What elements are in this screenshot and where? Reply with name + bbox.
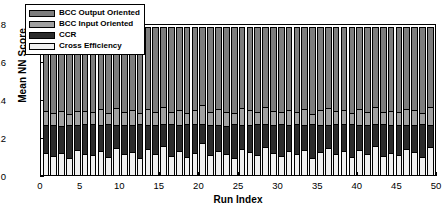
bar-segment-bcc-input-oriented [396,112,403,125]
bar-segment-cross-efficiency [58,153,65,175]
stacked-bar [199,25,206,175]
bar-segment-ccr [247,125,254,152]
bar-segment-ccr [333,124,340,155]
stacked-bar [176,25,183,175]
bar-segment-bcc-output-oriented [427,27,434,108]
legend-label: CCR [59,31,76,39]
legend-swatch [29,10,55,17]
bar-segment-cross-efficiency [372,146,379,175]
bar-segment-cross-efficiency [176,151,183,175]
x-tick-mark [198,172,199,176]
bar-segment-ccr [82,124,89,154]
bar-segment-bcc-output-oriented [419,27,426,113]
bar-segment-cross-efficiency [184,157,191,175]
bar-segment-bcc-input-oriented [58,111,65,126]
bar-segment-bcc-input-oriented [113,108,120,125]
bar-segment-ccr [145,125,152,150]
stacked-bar [388,25,395,175]
x-tick-label: 20 [178,180,218,191]
bar-segment-ccr [98,125,105,151]
legend-item: Cross Efficiency [29,41,140,51]
bar-segment-cross-efficiency [105,157,112,175]
bar-segment-cross-efficiency [270,153,277,175]
bar-segment-ccr [403,125,410,149]
bar-segment-bcc-output-oriented [231,27,238,114]
bar-segment-cross-efficiency [50,156,57,175]
bar-segment-ccr [43,125,50,153]
bar-segment-bcc-input-oriented [74,111,81,125]
bar-segment-bcc-output-oriented [152,27,159,112]
y-tick-mark [40,138,44,139]
bar-segment-bcc-input-oriented [411,110,418,125]
bar-segment-cross-efficiency [247,152,254,175]
bar-segment-bcc-input-oriented [98,109,105,125]
bar-segment-ccr [301,125,308,150]
bar-segment-bcc-output-oriented [349,27,356,113]
stacked-bar [223,25,230,175]
x-tick-label: 0 [20,180,60,191]
x-tick-mark [317,172,318,176]
legend-swatch [29,21,55,28]
bar-segment-bcc-output-oriented [317,27,324,111]
x-tick-label: 25 [218,180,258,191]
stacked-bar [215,25,222,175]
x-tick-mark [40,172,41,176]
chart-legend: BCC Output OrientedBCC Input OrientedCCR… [25,4,145,55]
bar-segment-cross-efficiency [380,156,387,175]
bar-segment-ccr [152,125,159,154]
bar-segment-ccr [121,125,128,154]
bar-segment-bcc-input-oriented [254,112,261,124]
legend-item: BCC Input Oriented [29,19,140,29]
bar-segment-cross-efficiency [419,157,426,175]
stacked-bar [184,25,191,175]
bar-segment-cross-efficiency [427,147,434,175]
bar-segment-ccr [349,124,356,157]
bar-segment-cross-efficiency [349,157,356,175]
x-tick-mark [357,172,358,176]
bar-segment-cross-efficiency [129,152,136,175]
bar-segment-ccr [380,124,387,156]
bar-segment-bcc-input-oriented [121,112,128,125]
bar-segment-bcc-output-oriented [356,27,363,109]
x-tick-mark [238,172,239,176]
bar-segment-bcc-input-oriented [176,110,183,125]
stacked-bar [364,25,371,175]
bar-segment-bcc-input-oriented [341,110,348,125]
stacked-bar [168,25,175,175]
x-tick-label: 5 [60,180,100,191]
stacked-bar [254,25,261,175]
bar-segment-ccr [192,124,199,153]
x-tick-label: 35 [297,180,337,191]
legend-item: BCC Output Oriented [29,8,140,18]
x-axis-label: Run Index [40,194,436,205]
stacked-bar [207,25,214,175]
bar-segment-bcc-output-oriented [372,27,379,107]
bar-segment-bcc-output-oriented [262,27,269,108]
bar-segment-ccr [262,124,269,146]
bar-segment-bcc-output-oriented [294,27,301,112]
stacked-bar [231,25,238,175]
bar-segment-bcc-input-oriented [270,111,277,125]
x-tick-label: 30 [258,180,298,191]
bar-segment-cross-efficiency [215,151,222,176]
bar-segment-ccr [294,124,301,154]
x-tick-label: 10 [99,180,139,191]
bar-segment-cross-efficiency [192,153,199,175]
bar-segment-bcc-output-oriented [380,27,387,112]
stacked-bar [403,25,410,175]
bar-segment-bcc-input-oriented [215,109,222,124]
bar-segment-ccr [129,125,136,153]
bar-segment-bcc-output-oriented [403,27,410,109]
bar-segment-cross-efficiency [98,151,105,175]
bar-segment-cross-efficiency [207,155,214,175]
bar-segment-bcc-input-oriented [294,112,301,125]
bar-segment-bcc-output-oriented [254,27,261,112]
bar-segment-bcc-input-oriented [223,112,230,126]
bar-segment-ccr [419,124,426,157]
bar-segment-bcc-output-oriented [168,27,175,112]
y-tick-mark [40,176,44,177]
bar-segment-bcc-output-oriented [333,27,340,112]
bar-segment-bcc-output-oriented [160,27,167,107]
stacked-bar [341,25,348,175]
bar-segment-cross-efficiency [231,158,238,175]
